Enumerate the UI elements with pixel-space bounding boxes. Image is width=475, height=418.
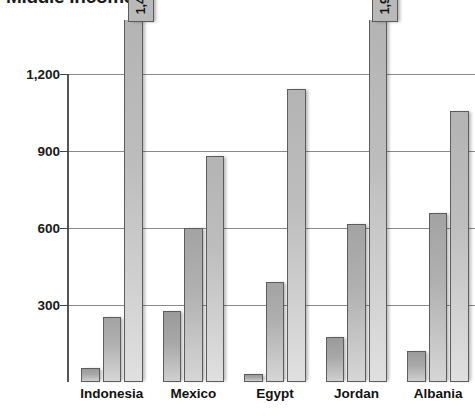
- x-axis-label: Jordan: [334, 386, 379, 401]
- y-tick-1200: [60, 74, 69, 75]
- bar: [244, 374, 263, 382]
- bar: [266, 282, 285, 382]
- y-tick-900: [60, 151, 69, 152]
- bar-group: [163, 60, 225, 382]
- bar: [163, 311, 182, 382]
- bar-group: 1,960: [326, 60, 388, 382]
- x-axis-label: Albania: [414, 386, 463, 401]
- bar: [103, 317, 122, 382]
- chart-title: Middle Income: [6, 0, 134, 8]
- bar: [326, 337, 345, 382]
- y-tick-label: 1,200: [26, 67, 60, 82]
- bar: [206, 156, 225, 382]
- bar-group: 1,490: [81, 60, 143, 382]
- bar-chart: Middle Income 3006009001,200 1,4901,960 …: [0, 0, 475, 418]
- value-callout: 1,490: [128, 0, 154, 22]
- y-tick-300: [60, 305, 69, 306]
- callout-value-label: 1,490: [134, 0, 148, 14]
- x-axis-label: Indonesia: [80, 386, 143, 401]
- y-tick-label: 300: [37, 298, 60, 313]
- bar: [287, 89, 306, 382]
- x-axis-labels: IndonesiaMexicoEgyptJordanAlbania: [67, 386, 475, 416]
- bar: [407, 351, 426, 382]
- bar: [81, 368, 100, 382]
- y-tick-label: 900: [37, 144, 60, 159]
- bar: [184, 228, 203, 382]
- bar: [429, 213, 448, 382]
- x-axis-label: Mexico: [171, 386, 217, 401]
- value-callout: 1,960: [372, 0, 398, 22]
- y-tick-label: 600: [37, 221, 60, 236]
- bar: [450, 111, 469, 382]
- callout-value-label: 1,960: [378, 0, 392, 14]
- y-tick-600: [60, 228, 69, 229]
- bar-group: [244, 60, 306, 382]
- plot-area: 1,4901,960: [67, 60, 475, 382]
- x-axis-label: Egypt: [256, 386, 294, 401]
- bar: [124, 20, 143, 382]
- bar-group: [407, 60, 469, 382]
- bar: [369, 20, 388, 382]
- bar: [347, 224, 366, 382]
- y-axis-labels: 3006009001,200: [0, 60, 60, 382]
